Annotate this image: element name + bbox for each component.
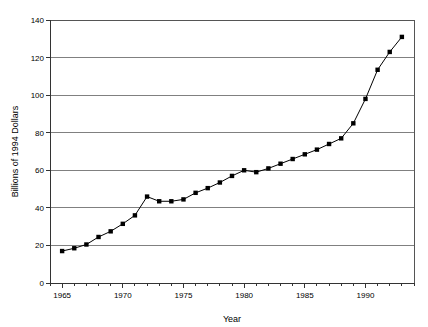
data-point-marker xyxy=(230,174,234,178)
x-tick-label: 1965 xyxy=(53,291,71,300)
data-point-marker xyxy=(157,199,161,203)
data-point-marker xyxy=(72,246,76,250)
data-point-marker xyxy=(363,97,367,101)
x-tick-label: 1975 xyxy=(175,291,193,300)
y-tick-label: 40 xyxy=(35,204,44,213)
data-point-marker xyxy=(327,142,331,146)
y-tick-label: 140 xyxy=(31,16,45,25)
data-point-marker xyxy=(84,242,88,246)
data-point-marker xyxy=(133,213,137,217)
data-point-marker xyxy=(266,166,270,170)
data-point-marker xyxy=(339,136,343,140)
y-tick-label: 60 xyxy=(35,166,44,175)
y-tick-label: 20 xyxy=(35,241,44,250)
data-point-marker xyxy=(400,35,404,39)
x-tick-label: 1980 xyxy=(235,291,253,300)
data-point-marker xyxy=(169,199,173,203)
x-tick-label: 1990 xyxy=(357,291,375,300)
data-point-marker xyxy=(242,168,246,172)
data-point-marker xyxy=(290,157,294,161)
y-tick-label: 120 xyxy=(31,54,45,63)
data-point-marker xyxy=(303,152,307,156)
data-point-marker xyxy=(254,170,258,174)
data-point-marker xyxy=(375,68,379,72)
data-point-marker xyxy=(121,222,125,226)
y-tick-label: 80 xyxy=(35,129,44,138)
data-point-marker xyxy=(60,249,64,253)
data-point-marker xyxy=(218,180,222,184)
y-tick-label: 100 xyxy=(31,91,45,100)
y-axis-title: Billions of 1994 Dollars xyxy=(10,105,20,197)
data-point-marker xyxy=(351,121,355,125)
x-tick-label: 1970 xyxy=(114,291,132,300)
data-point-marker xyxy=(193,191,197,195)
data-point-marker xyxy=(96,235,100,239)
data-line xyxy=(62,37,402,251)
data-point-marker xyxy=(388,50,392,54)
chart-figure: 0204060801001201401965197019751980198519… xyxy=(0,0,428,327)
data-point-marker xyxy=(181,197,185,201)
line-chart: 0204060801001201401965197019751980198519… xyxy=(0,0,428,327)
x-axis-title: Year xyxy=(223,314,241,324)
y-tick-label: 0 xyxy=(40,279,45,288)
data-point-marker xyxy=(206,186,210,190)
data-point-marker xyxy=(108,229,112,233)
data-point-marker xyxy=(278,162,282,166)
data-point-marker xyxy=(145,194,149,198)
x-tick-label: 1985 xyxy=(296,291,314,300)
data-point-marker xyxy=(315,147,319,151)
